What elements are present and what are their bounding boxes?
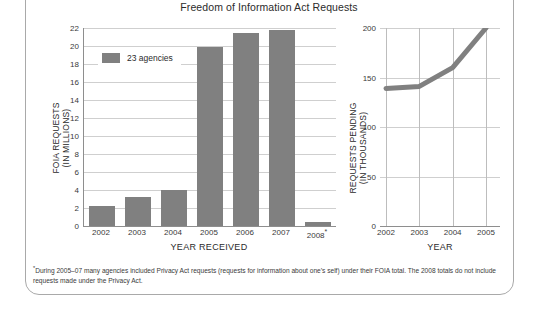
line-chart-x-tick-2005: 2005: [477, 228, 495, 237]
legend-swatch-icon: [102, 53, 120, 63]
legend-label: 23 agencies: [127, 53, 173, 63]
line-chart-y-tick-100: 100: [363, 123, 376, 132]
bar-chart-y-tick-6: 6: [75, 168, 79, 177]
bar-chart-y-tick-8: 8: [75, 150, 79, 159]
bar-chart-y-tick-14: 14: [70, 96, 79, 105]
bar-chart-y-tick-4: 4: [75, 186, 79, 195]
bar-chart-y-tick-16: 16: [70, 78, 79, 87]
line-chart: REQUESTS PENDING (IN THOUSANDS) 05010015…: [336, 28, 516, 260]
line-chart-y-ticks: 050100150200: [350, 28, 376, 226]
bar-chart: FOIA REQUESTS (IN MILLIONS) 024681012141…: [33, 28, 343, 260]
line-chart-y-tick-200: 200: [363, 24, 376, 33]
bar-chart-x-tick-2006: 2006: [236, 228, 254, 237]
bar-2006: [233, 33, 259, 226]
page-title: Freedom of Information Act Requests: [0, 1, 538, 13]
bar-chart-y-tick-0: 0: [75, 222, 79, 231]
line-chart-x-tick-2003: 2003: [410, 228, 428, 237]
bar-chart-x-tick-2007: 2007: [272, 228, 290, 237]
bar-chart-x-tick-2003: 2003: [128, 228, 146, 237]
line-chart-x-tick-2002: 2002: [377, 228, 395, 237]
bar-chart-y-tick-2: 2: [75, 204, 79, 213]
bar-2004: [161, 190, 187, 226]
bar-chart-x-tick-2004: 2004: [164, 228, 182, 237]
bar-chart-y-tick-12: 12: [70, 114, 79, 123]
bar-chart-x-ticks: 2002200320042005200620072008*: [83, 228, 335, 242]
line-chart-y-tick-50: 50: [367, 172, 376, 181]
line-chart-x-tick-2004: 2004: [444, 228, 462, 237]
bar-chart-gridline-22: [84, 28, 336, 29]
bar-2005: [197, 47, 223, 226]
bar-2003: [125, 197, 151, 226]
bar-chart-y-tick-22: 22: [70, 24, 79, 33]
bar-chart-x-axis-label: YEAR RECEIVED: [83, 242, 335, 252]
footnote-text: During 2005–07 many agencies included Pr…: [33, 267, 496, 284]
line-chart-x-ticks: 2002200320042005: [380, 228, 500, 242]
line-chart-series-path: [380, 28, 500, 226]
bar-chart-x-tick-2005: 2005: [200, 228, 218, 237]
bar-2007: [269, 30, 295, 226]
line-chart-x-axis-label: YEAR: [380, 242, 500, 252]
line-chart-plot-area: [380, 28, 500, 227]
line-chart-y-tick-0: 0: [372, 222, 376, 231]
bar-chart-legend: 23 agencies: [98, 50, 181, 66]
bar-chart-x-tick-2002: 2002: [92, 228, 110, 237]
footnote: *During 2005–07 many agencies included P…: [33, 264, 503, 285]
bar-chart-y-tick-18: 18: [70, 60, 79, 69]
bar-2008: [305, 222, 331, 227]
bar-chart-x-tick-2008: 2008*: [307, 228, 328, 240]
bar-chart-y-tick-10: 10: [70, 132, 79, 141]
line-chart-y-tick-150: 150: [363, 73, 376, 82]
bar-2002: [89, 206, 115, 226]
bar-chart-y-ticks: 0246810121416182022: [55, 28, 79, 226]
bar-chart-y-tick-20: 20: [70, 42, 79, 51]
